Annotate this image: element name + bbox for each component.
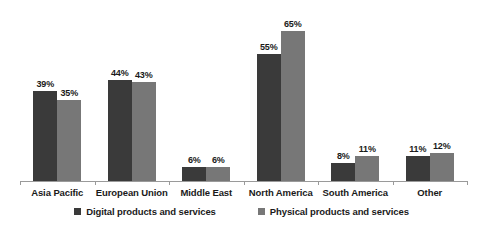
legend-label: Digital products and services [86,206,216,217]
legend-label: Physical products and services [270,206,409,217]
x-axis-label-middle-east: Middle East [169,187,244,198]
bar[interactable]: 44% [108,80,132,181]
bar[interactable]: 12% [430,153,454,181]
bar-group: 44%43% [95,8,170,181]
bar-value-label: 39% [37,79,54,89]
bar[interactable]: 6% [206,167,230,181]
legend-item[interactable]: Physical products and services [258,206,409,217]
axis-tick [95,181,96,185]
bar-value-label: 8% [337,151,350,161]
legend-item[interactable]: Digital products and services [74,206,216,217]
plot-area: 39%35%44%43%6%6%55%65%8%11%11%12% [20,8,467,181]
legend-swatch-icon [258,208,265,215]
bar[interactable]: 6% [182,167,206,181]
axis-tick [20,181,21,185]
x-axis-label-asia-pacific: Asia Pacific [20,187,95,198]
x-axis-label-south-america: South America [318,187,393,198]
bar-value-label: 11% [359,144,376,154]
axis-tick [244,181,245,185]
bar-group: 6%6% [169,8,244,181]
bar-value-label: 6% [188,155,201,165]
bar-value-label: 44% [111,68,128,78]
bar[interactable]: 39% [33,91,57,181]
bar-value-label: 35% [61,88,78,98]
bar[interactable]: 43% [132,82,156,181]
bar[interactable]: 11% [355,156,379,181]
bar-value-label: 65% [284,19,301,29]
bar-pair: 44%43% [95,8,170,181]
bar-value-label: 43% [135,70,152,80]
bar-group: 39%35% [20,8,95,181]
bar-pair: 6%6% [169,8,244,181]
bar-value-label: 11% [409,144,426,154]
x-axis-label-other: Other [393,187,468,198]
legend-swatch-icon [74,208,81,215]
bar-group: 55%65% [244,8,319,181]
bar-pair: 11%12% [393,8,468,181]
bar[interactable]: 65% [281,31,305,181]
axis-tick [318,181,319,185]
bar-pair: 39%35% [20,8,95,181]
chart-legend: Digital products and servicesPhysical pr… [0,206,483,217]
bar-value-label: 12% [433,141,450,151]
x-axis-category-labels: Asia PacificEuropean UnionMiddle EastNor… [20,187,467,203]
bar[interactable]: 55% [257,54,281,181]
bar-group: 11%12% [393,8,468,181]
bar[interactable]: 35% [57,100,81,181]
bar-pair: 55%65% [244,8,319,181]
bar[interactable]: 8% [331,163,355,181]
axis-tick [169,181,170,185]
axis-tick [393,181,394,185]
x-axis-label-european-union: European Union [95,187,170,198]
bar[interactable]: 11% [406,156,430,181]
bar-chart: 39%35%44%43%6%6%55%65%8%11%11%12% Asia P… [0,0,483,236]
axis-tick [467,181,468,185]
x-axis-label-north-america: North America [244,187,319,198]
bar-pair: 8%11% [318,8,393,181]
bar-group: 8%11% [318,8,393,181]
bar-value-label: 55% [260,42,277,52]
bar-value-label: 6% [212,155,225,165]
